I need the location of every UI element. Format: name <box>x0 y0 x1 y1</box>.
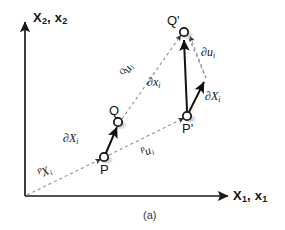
label-dui-right: ∂ui <box>201 46 215 60</box>
label-dXi-right-text: ∂X <box>205 89 218 103</box>
y-axis-label-X: X <box>33 10 42 25</box>
marker-P <box>100 153 108 161</box>
x-axis-label-comma: , <box>247 188 255 203</box>
vector-group <box>106 40 204 153</box>
vector-dxi-mid <box>184 40 187 111</box>
y-axis-label: X2, x2 <box>33 11 67 26</box>
marker-Q-prime <box>180 28 188 36</box>
label-dXi-right-sub: i <box>218 95 220 104</box>
point-label-P: P <box>100 163 109 176</box>
label-dXi-left: ∂Xi <box>63 132 79 146</box>
label-dui-right-sub: i <box>213 51 215 60</box>
x-axis-label-X: X <box>233 188 242 203</box>
axis-group <box>25 22 228 196</box>
label-dxi-mid-text: ∂x <box>147 75 158 89</box>
figure-container: X2, x2 X1, x1 P Q P' Q' ∂Xi ∂xi ∂Xi ∂ui … <box>0 0 285 230</box>
label-dui-right-text: ∂u <box>201 45 213 59</box>
point-label-Q: Q <box>109 104 119 117</box>
vector-dXi-left <box>106 127 117 153</box>
label-dxi-mid-sub: i <box>158 81 160 90</box>
y-axis-label-x-sub: 2 <box>62 16 67 26</box>
label-dXi-right: ∂Xi <box>205 90 221 104</box>
point-label-P-prime: P' <box>182 122 193 135</box>
label-dxi-mid: ∂xi <box>147 76 161 90</box>
dashed-position-PXi <box>27 159 101 195</box>
marker-Q <box>114 118 122 126</box>
marker-P-prime <box>183 112 191 120</box>
point-label-Q-prime: Q' <box>167 14 180 27</box>
y-axis-label-comma: , <box>47 10 55 25</box>
x-axis-label: X1, x1 <box>233 189 267 204</box>
figure-caption: (a) <box>143 210 156 221</box>
label-dXi-left-text: ∂X <box>63 131 76 145</box>
vector-dXi-right <box>189 82 204 112</box>
x-axis-label-x-sub: 1 <box>262 194 267 204</box>
label-dXi-left-sub: i <box>76 137 78 146</box>
